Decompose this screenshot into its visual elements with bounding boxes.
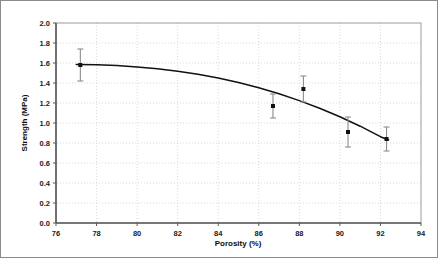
x-tick-label: 78 — [92, 229, 100, 238]
x-axis-tick-labels: 76788082848688909294 — [52, 229, 426, 238]
y-tick-label: 1.8 — [40, 39, 50, 48]
data-point-marker — [385, 137, 389, 141]
data-point-marker — [78, 63, 82, 67]
x-tick-label: 86 — [255, 229, 263, 238]
y-tick-label: 0.0 — [40, 219, 50, 228]
y-axis-tick-labels: 0.00.20.40.60.81.01.21.41.61.82.0 — [40, 19, 51, 228]
y-tick-label: 1.4 — [40, 79, 51, 88]
y-tick-label: 1.2 — [40, 99, 50, 108]
x-tick-label: 80 — [133, 229, 141, 238]
x-tick-label: 84 — [214, 229, 223, 238]
data-point-marker — [301, 87, 305, 91]
y-tick-label: 2.0 — [40, 19, 50, 28]
y-tick-label: 0.2 — [40, 199, 50, 208]
x-tick-label: 92 — [376, 229, 384, 238]
y-tick-label: 1.6 — [40, 59, 50, 68]
data-point-marker — [271, 104, 275, 108]
x-tick-label: 94 — [417, 229, 426, 238]
chart-figure: 0.00.20.40.60.81.01.21.41.61.82.0 767880… — [0, 0, 438, 258]
chart-canvas: 0.00.20.40.60.81.01.21.41.61.82.0 767880… — [1, 1, 438, 258]
x-tick-label: 82 — [173, 229, 181, 238]
y-tick-label: 1.0 — [40, 119, 50, 128]
y-tick-label: 0.6 — [40, 159, 50, 168]
x-tick-label: 90 — [336, 229, 344, 238]
y-tick-label: 0.4 — [40, 179, 51, 188]
data-point-marker — [346, 130, 350, 134]
y-axis-title: Strength (MPa) — [20, 94, 29, 151]
x-tick-label: 88 — [295, 229, 303, 238]
y-tick-label: 0.8 — [40, 139, 50, 148]
x-tick-label: 76 — [52, 229, 60, 238]
x-axis-title: Porosity (%) — [215, 239, 262, 248]
